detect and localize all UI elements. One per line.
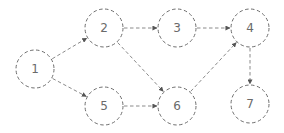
node-label: 4: [246, 21, 254, 35]
node-3: 3: [158, 9, 196, 47]
node-label: 6: [173, 99, 181, 113]
node-4: 4: [231, 9, 269, 47]
edge-1-to-2: [52, 38, 87, 59]
edge-2-to-6: [118, 43, 164, 92]
node-6: 6: [158, 87, 196, 125]
node-label: 7: [246, 97, 254, 111]
node-label: 1: [31, 62, 39, 76]
node-label: 3: [173, 21, 181, 35]
edges-layer: [52, 28, 250, 106]
node-label: 5: [100, 99, 108, 113]
edge-1-to-5: [53, 79, 87, 97]
node-label: 2: [100, 21, 108, 35]
edge-6-to-4: [191, 43, 237, 92]
node-2: 2: [85, 9, 123, 47]
dependency-graph: 1234567: [0, 0, 284, 133]
nodes-layer: 1234567: [16, 9, 269, 125]
node-1: 1: [16, 50, 54, 88]
node-5: 5: [85, 87, 123, 125]
node-7: 7: [231, 85, 269, 123]
